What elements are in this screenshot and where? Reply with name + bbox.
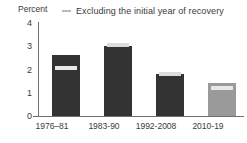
legend-dash-icon [62,10,71,12]
y-tick-4: 4 [6,18,32,28]
bar-chart: Excluding the initial year of recovery P… [0,0,247,143]
bar-marker-1983-90 [107,43,129,47]
x-label-1976-81: 1976–81 [24,121,80,131]
x-label-1983-90: 1983-90 [76,121,132,131]
bar-slot-2010-19 [198,22,247,116]
bar-slot-1976-81 [42,22,92,116]
x-label-1992-2008: 1992-2008 [128,121,184,131]
y-tick-0: 0 [6,111,32,121]
plot-area [38,22,244,116]
legend-label-excluding-initial-year: Excluding the initial year of recovery [76,6,224,16]
bar-marker-1976-81 [55,66,77,70]
bar-marker-1992-2008 [159,72,181,76]
bar-2010-19 [208,83,236,116]
bar-slot-1992-2008 [146,22,196,116]
bar-1992-2008 [156,74,184,116]
y-axis-title: Percent [18,4,47,14]
y-tick-3: 3 [6,41,32,51]
x-label-2010-19: 2010-19 [180,121,236,131]
bar-slot-1983-90 [94,22,144,116]
x-axis-line [33,116,244,117]
bar-1983-90 [104,46,132,117]
chart-legend: Excluding the initial year of recovery [62,6,224,16]
bar-1976-81 [52,55,80,116]
bar-marker-2010-19 [211,86,233,90]
y-tick-1: 1 [6,88,32,98]
y-tick-2: 2 [6,65,32,75]
